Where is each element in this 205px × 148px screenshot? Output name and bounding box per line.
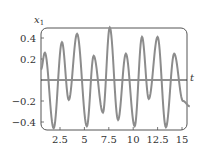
x-tick-label: 7.5 <box>101 134 117 145</box>
line-chart: 0.40.2−0.2−0.4 2.557.51012.515 x1 t <box>0 0 205 148</box>
x-tick-label: 10 <box>127 134 140 145</box>
y-axis-label-subscript: 1 <box>40 19 44 27</box>
x-tick-label: 2.5 <box>52 134 68 145</box>
x-tick-label: 12.5 <box>146 134 168 145</box>
y-tick-label: −0.2 <box>12 96 36 107</box>
data-series-x1 <box>41 28 190 129</box>
y-axis-label: x1 <box>34 14 44 27</box>
x-axis-label: t <box>190 72 195 83</box>
y-tick-label: 0.4 <box>20 33 36 44</box>
y-ticks: 0.40.2−0.2−0.4 <box>12 33 44 128</box>
x-tick-label: 5 <box>81 134 87 145</box>
x-tick-label: 15 <box>176 134 189 145</box>
y-tick-label: −0.4 <box>12 117 36 128</box>
y-tick-label: 0.2 <box>20 54 36 65</box>
